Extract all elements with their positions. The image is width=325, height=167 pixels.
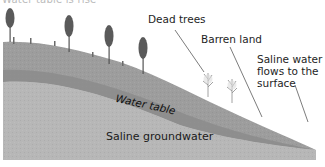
pine-tree-icon bbox=[65, 15, 74, 52]
label-saline-flow: Saline water flows to the surface bbox=[257, 53, 325, 89]
salinity-diagram: Water table is rise bbox=[0, 0, 325, 167]
label-saline-groundwater: Saline groundwater bbox=[106, 130, 213, 143]
label-barren-land: Barren land bbox=[201, 33, 262, 45]
dead-tree-icon bbox=[227, 79, 237, 103]
label-dead-trees: Dead trees bbox=[148, 13, 206, 25]
pine-tree-icon bbox=[6, 8, 15, 42]
pine-tree-icon bbox=[139, 37, 148, 74]
dead-tree-icon bbox=[203, 73, 213, 97]
